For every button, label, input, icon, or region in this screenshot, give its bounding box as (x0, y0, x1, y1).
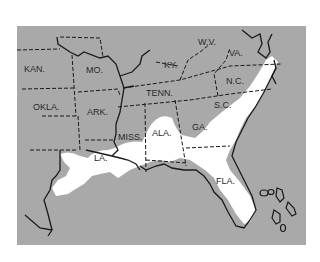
label-ala: ALA. (152, 128, 172, 138)
label-tenn: TENN. (146, 88, 173, 98)
label-sc: S.C. (214, 100, 232, 110)
label-ga: GA. (192, 122, 208, 132)
label-miss: MISS. (118, 132, 143, 142)
label-okla: OKLA. (33, 102, 60, 112)
label-fla: FLA. (216, 176, 235, 186)
label-ark: ARK. (87, 107, 108, 117)
label-kan: KAN. (24, 64, 45, 74)
label-wv: W.V. (198, 37, 216, 47)
label-ky: KY. (164, 60, 177, 70)
label-la: LA. (94, 153, 108, 163)
label-va: VA. (229, 48, 243, 58)
southeast-us-map: KAN. MO. KY. W.V. VA. OKLA. ARK. TENN. N… (0, 0, 320, 262)
label-nc: N.C. (226, 76, 244, 86)
label-mo: MO. (86, 65, 103, 75)
